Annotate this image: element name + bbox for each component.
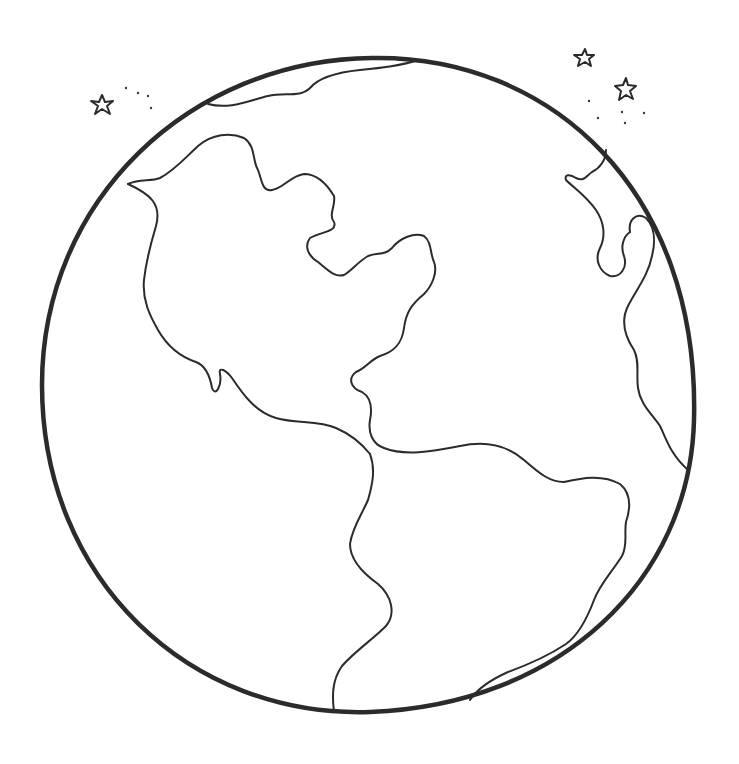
europe-coastline [566, 150, 630, 276]
dot [125, 87, 127, 89]
dot [588, 100, 590, 102]
dot [137, 92, 139, 94]
dot [150, 107, 152, 109]
europe-peninsula [624, 216, 688, 470]
arctic-coastline [208, 60, 418, 106]
dot [624, 122, 626, 124]
globe-illustration [0, 0, 739, 764]
globe-outline [42, 58, 694, 712]
dot [643, 112, 645, 114]
star-icon-left [91, 95, 113, 114]
africa-outline [384, 444, 629, 700]
dot [621, 111, 623, 113]
dot [147, 95, 149, 97]
north-america [128, 135, 435, 448]
dot [597, 117, 599, 119]
star-icon-right [615, 78, 636, 100]
south-america [333, 454, 392, 712]
star-icon-top-right [574, 49, 594, 66]
